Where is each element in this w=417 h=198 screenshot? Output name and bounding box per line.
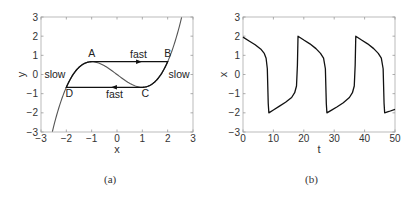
point-label-c: C xyxy=(142,87,150,99)
x-tick-label: 0 xyxy=(240,133,246,144)
panel-b-x-of-t-line xyxy=(243,36,395,113)
y-tick-label: −2 xyxy=(27,107,39,118)
y-tick-label: 1 xyxy=(234,50,240,61)
panel-b-x-axis-label: t xyxy=(317,143,320,155)
panel-b-axes-frame xyxy=(243,17,395,132)
point-label-d: D xyxy=(66,87,74,99)
x-tick-label: 3 xyxy=(190,133,196,144)
panel-a-x-axis-label: x xyxy=(114,143,120,155)
point-label-a: A xyxy=(88,47,95,59)
panel-a-phase-plane: −3−2−10123−3−2−10123 ABCD fastfastslowsl… xyxy=(15,12,196,156)
y-tick-label: 2 xyxy=(234,31,240,42)
x-tick-label: 10 xyxy=(268,133,280,144)
x-tick-label: 50 xyxy=(389,133,401,144)
x-tick-label: 2 xyxy=(165,133,171,144)
y-tick-label: 1 xyxy=(32,50,38,61)
y-tick-label: 2 xyxy=(32,31,38,42)
annotation-fast: fast xyxy=(130,48,147,60)
y-tick-label: −3 xyxy=(27,127,39,138)
annotation-slow: slow xyxy=(44,68,65,80)
y-tick-label: 0 xyxy=(234,69,240,80)
figure: −3−2−10123−3−2−10123 ABCD fastfastslowsl… xyxy=(0,0,417,198)
y-tick-label: −1 xyxy=(229,88,241,99)
annotation-slow: slow xyxy=(169,68,190,80)
y-tick-label: −3 xyxy=(229,127,241,138)
annotation-fast: fast xyxy=(106,88,123,100)
x-tick-label: −1 xyxy=(86,133,98,144)
panel-a-cubic-nullcline xyxy=(52,17,181,131)
panel-b-time-series: 01020304050−3−2−10123 t x xyxy=(217,12,401,156)
panel-a-caption: (a) xyxy=(104,173,116,185)
arrow-right-icon xyxy=(136,60,142,64)
point-label-b: B xyxy=(164,47,171,59)
panel-b-ticks: 01020304050−3−2−10123 xyxy=(229,12,401,145)
y-tick-label: −2 xyxy=(229,107,241,118)
y-tick-label: 3 xyxy=(32,12,38,23)
panel-a-y-axis-label: y xyxy=(15,71,27,77)
x-tick-label: 40 xyxy=(359,133,371,144)
panel-b-y-axis-label: x xyxy=(217,71,229,77)
x-tick-label: −2 xyxy=(61,133,73,144)
x-tick-label: 30 xyxy=(329,133,341,144)
x-tick-label: 20 xyxy=(298,133,310,144)
panel-b-caption: (b) xyxy=(305,173,318,185)
panel-a-direction-arrows xyxy=(111,60,142,90)
y-tick-label: 0 xyxy=(32,69,38,80)
y-tick-label: −1 xyxy=(27,88,39,99)
x-tick-label: 1 xyxy=(140,133,146,144)
y-tick-label: 3 xyxy=(234,12,240,23)
